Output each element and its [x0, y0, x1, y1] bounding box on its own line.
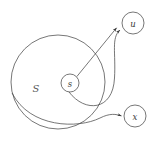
node-s-label: s — [68, 79, 73, 89]
set-label-S: S — [33, 83, 40, 94]
node-s: s — [61, 74, 79, 92]
figure-canvas: S s u x — [0, 0, 158, 141]
edge-s-to-u-curved — [69, 30, 120, 106]
edge-s-to-u-straight — [77, 28, 117, 77]
graph-figure: S s u x — [0, 0, 158, 141]
edge-s-to-x-curved — [12, 93, 122, 124]
node-u-label: u — [130, 19, 135, 29]
node-x: x — [124, 105, 146, 127]
set-region-S: S — [11, 35, 105, 129]
node-x-label: x — [133, 112, 138, 122]
set-boundary-circle — [11, 35, 105, 129]
node-u: u — [122, 12, 144, 34]
